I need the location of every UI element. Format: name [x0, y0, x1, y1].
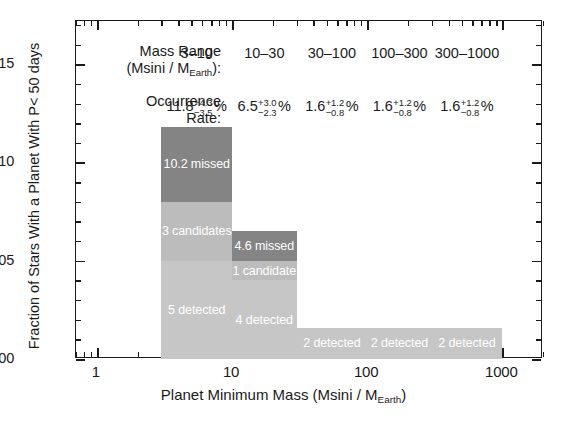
y-axis-major-tick-right — [532, 162, 541, 164]
bar-segment-label: 5 detected — [168, 303, 225, 317]
x-axis-minor-tick-top — [346, 21, 347, 26]
x-axis-minor-tick — [76, 352, 77, 357]
x-axis-minor-tick-top — [449, 21, 450, 26]
y-axis-major-tick — [76, 64, 85, 66]
y-axis-minor-tick — [76, 84, 81, 85]
x-axis-minor-tick — [84, 352, 85, 357]
y-axis-title: Fraction of Stars With a Planet With P< … — [26, 31, 42, 361]
x-axis-minor-tick-top — [327, 21, 328, 26]
y-tick-label: 0.10 — [0, 153, 14, 169]
x-axis-title-suffix: ) — [401, 386, 406, 403]
y-axis-minor-tick — [76, 202, 81, 203]
occurrence-rate-cell: 1.6+1.2−0.8% — [407, 97, 527, 117]
x-axis-major-tick-top — [232, 21, 234, 30]
x-axis-major-tick-top — [502, 21, 504, 30]
x-axis-minor-tick-top — [91, 21, 92, 26]
y-tick-label: 0.00 — [0, 350, 14, 366]
y-axis-minor-tick — [76, 104, 81, 105]
y-axis-minor-tick-right — [536, 182, 541, 183]
x-axis-minor-tick-top — [84, 21, 85, 26]
x-axis-minor-tick-top — [202, 21, 203, 26]
rate-uncertainty: +1.2−0.8 — [461, 98, 480, 118]
y-axis-minor-tick-right — [536, 221, 541, 222]
plot-area: Mass Range (Msini / MEarth): Occurrence … — [75, 20, 542, 358]
x-axis-minor-tick — [91, 352, 92, 357]
x-axis-minor-tick-top — [161, 21, 162, 26]
y-axis-major-tick — [76, 162, 85, 164]
bar-segment-detected: 2 detected — [297, 328, 368, 359]
x-axis-minor-tick-top — [481, 21, 482, 26]
bar-segment-label: 2 detected — [438, 336, 495, 350]
bar-segment-label: 4.6 missed — [235, 239, 294, 253]
bar-segment-label: 10.2 missed — [164, 157, 230, 171]
mass-range-cell: 300–1000 — [407, 45, 527, 61]
y-axis-minor-tick — [76, 241, 81, 242]
x-axis-minor-tick-top — [472, 21, 473, 26]
x-axis-title: Planet Minimum Mass (Msini / MEarth) — [0, 386, 567, 405]
x-axis-minor-tick-top — [297, 21, 298, 26]
x-axis-major-tick-top — [367, 21, 369, 30]
x-tick-label: 1000 — [466, 363, 536, 380]
bar-30-100[interactable]: 2 detected — [297, 328, 368, 359]
y-axis-minor-tick-right — [536, 300, 541, 301]
x-axis-minor-tick-top — [76, 21, 77, 26]
x-axis-title-prefix: Planet Minimum Mass (Msini / M — [161, 386, 378, 403]
y-axis-major-tick-right — [532, 359, 541, 361]
rate-value: 1.6 — [440, 98, 460, 114]
x-axis-minor-tick-top — [354, 21, 355, 26]
x-tick-label: 100 — [331, 363, 401, 380]
bar-segment-label: 3 candidates — [162, 224, 232, 238]
x-axis-minor-tick — [543, 352, 544, 357]
y-axis-minor-tick — [76, 221, 81, 222]
bar-300-1000[interactable]: 2 detected — [432, 328, 503, 359]
y-axis-major-tick-right — [532, 64, 541, 66]
bar-segment-detected: 4 detected — [232, 280, 296, 359]
x-axis-minor-tick-top — [361, 21, 362, 26]
mass-range-row-label-line2: (Msini / MEarth): — [71, 60, 221, 78]
rate-value: 1.6 — [305, 98, 325, 114]
y-axis-minor-tick — [76, 123, 81, 124]
y-axis-minor-tick-right — [536, 45, 541, 46]
y-axis-minor-tick — [76, 280, 81, 281]
rate-error-high: +1.2 — [461, 98, 480, 108]
bar-3-10[interactable]: 5 detected3 candidates10.2 missed — [161, 127, 232, 359]
bar-10-30[interactable]: 4 detected1 candidate4.6 missed — [232, 231, 296, 359]
rate-unit: % — [481, 98, 494, 114]
x-axis-title-subscript: Earth — [378, 394, 402, 405]
x-axis-minor-tick-top — [432, 21, 433, 26]
bar-segment-detected: 2 detected — [432, 328, 503, 359]
y-tick-label: 0.15 — [0, 55, 14, 71]
x-tick-label: 1 — [61, 363, 131, 380]
y-axis-major-tick — [76, 261, 85, 263]
y-axis-minor-tick-right — [536, 84, 541, 85]
bar-segment-label: 2 detected — [371, 336, 428, 350]
x-axis-major-tick-top — [97, 21, 99, 30]
bar-segment-label: 1 candidate — [233, 264, 297, 278]
rate-error-low: −0.8 — [461, 108, 480, 118]
y-axis-minor-tick — [76, 320, 81, 321]
y-axis-minor-tick-right — [536, 25, 541, 26]
y-axis-major-tick-right — [532, 261, 541, 263]
x-axis-minor-tick-top — [337, 21, 338, 26]
bar-100-300[interactable]: 2 detected — [367, 328, 431, 359]
bar-segment-detected: 2 detected — [367, 328, 431, 359]
x-tick-label: 10 — [196, 363, 266, 380]
y-axis-minor-tick — [76, 300, 81, 301]
x-axis-minor-tick-top — [178, 21, 179, 26]
y-axis-minor-tick-right — [536, 241, 541, 242]
x-axis-minor-tick-top — [462, 21, 463, 26]
bar-segment-label: 2 detected — [303, 336, 360, 350]
bar-segment-missed: 10.2 missed — [161, 127, 232, 202]
figure-canvas: Fraction of Stars With a Planet With P< … — [0, 0, 567, 428]
x-axis-minor-tick-top — [226, 21, 227, 26]
bar-segment-missed: 4.6 missed — [232, 231, 296, 260]
y-axis-minor-tick — [76, 182, 81, 183]
y-axis-minor-tick-right — [536, 280, 541, 281]
y-axis-minor-tick-right — [536, 320, 541, 321]
bar-segment-label: 4 detected — [236, 313, 293, 327]
y-axis-minor-tick-right — [536, 339, 541, 340]
x-axis-minor-tick-top — [543, 21, 544, 26]
y-axis-minor-tick-right — [536, 123, 541, 124]
bar-segment-candidates: 1 candidate — [232, 261, 296, 281]
rate-value: 11.8 — [167, 98, 194, 114]
